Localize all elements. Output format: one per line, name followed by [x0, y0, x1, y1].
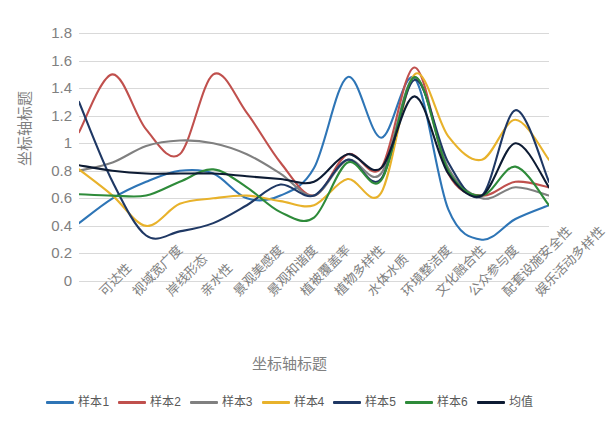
series-line: [79, 77, 549, 240]
legend-item[interactable]: 样本5: [333, 396, 396, 408]
y-axis-tick-label: 1.6: [32, 53, 72, 68]
legend-color-swatch: [333, 401, 361, 404]
legend-item[interactable]: 样本2: [118, 396, 181, 408]
legend-color-swatch: [190, 401, 218, 404]
legend-label: 样本5: [365, 396, 396, 408]
legend-label: 样本6: [437, 396, 468, 408]
legend-item[interactable]: 样本3: [190, 396, 253, 408]
x-axis-tick-labels: 可达性视域宽广度岸线形态亲水性景观美感度景观和谐度植被覆盖率植物多样性水体水质环…: [0, 281, 579, 356]
legend-label: 样本1: [78, 396, 109, 408]
legend-color-swatch: [46, 401, 74, 404]
legend-color-swatch: [262, 401, 290, 404]
legend-label: 样本3: [222, 396, 253, 408]
legend-color-swatch: [118, 401, 146, 404]
legend-label: 样本2: [150, 396, 181, 408]
y-axis-tick-label: 1.8: [32, 25, 72, 40]
legend-item[interactable]: 样本1: [46, 396, 109, 408]
legend-color-swatch: [405, 401, 433, 404]
chart-legend: 样本1样本2样本3样本4样本5样本6均值: [0, 392, 579, 412]
y-axis-tick-label: 1.2: [32, 108, 72, 123]
series-line: [79, 77, 549, 221]
legend-label: 均值: [509, 396, 533, 408]
series-line: [79, 67, 549, 195]
y-axis-tick-label: 0.8: [32, 163, 72, 178]
legend-color-swatch: [477, 401, 505, 404]
series-line: [79, 73, 549, 226]
y-axis-tick-label: 0.2: [32, 245, 72, 260]
y-axis-tick-label: 1.4: [32, 80, 72, 95]
y-axis-tick-label: 0.4: [32, 218, 72, 233]
y-axis-tick-label: 0.6: [32, 190, 72, 205]
legend-item[interactable]: 样本6: [405, 396, 468, 408]
legend-item[interactable]: 均值: [477, 396, 533, 408]
legend-item[interactable]: 样本4: [262, 396, 325, 408]
y-axis-tick-label: 1: [32, 135, 72, 150]
series-line: [79, 96, 549, 196]
legend-label: 样本4: [294, 396, 325, 408]
x-axis-title: 坐标轴标题: [0, 352, 579, 373]
